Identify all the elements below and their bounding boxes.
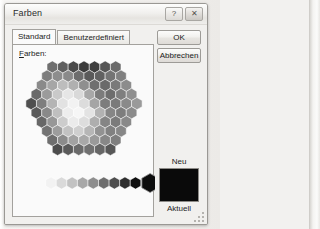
new-color-label: Neu	[157, 156, 201, 167]
gray-ramp-cell[interactable]	[67, 177, 78, 189]
gray-ramp-cell[interactable]	[130, 177, 141, 189]
gray-ramp-cell[interactable]	[77, 177, 88, 189]
tab-benutzerdefiniert[interactable]: Benutzerdefiniert	[57, 30, 129, 45]
gray-ramp-cell[interactable]	[46, 177, 57, 189]
honeycomb-svg[interactable]	[13, 59, 155, 169]
gray-ramp-cell[interactable]	[56, 177, 67, 189]
window-title: Farben	[13, 8, 42, 18]
ok-button[interactable]: OK	[157, 30, 201, 45]
tab-standard[interactable]: Standard	[12, 29, 56, 45]
title-bar[interactable]: Farben ? ✕	[5, 4, 207, 25]
question-mark-icon: ?	[166, 8, 182, 20]
close-button[interactable]: ✕	[185, 7, 203, 21]
selected-color-hexagon[interactable]	[142, 174, 155, 193]
colors-label: Farben:	[19, 49, 47, 58]
color-preview: Neu Aktuell	[157, 156, 201, 214]
honeycomb-color-grid[interactable]	[13, 59, 155, 169]
tab-strip: Standard Benutzerdefiniert	[12, 29, 130, 45]
gray-ramp-cell[interactable]	[120, 177, 131, 189]
colors-label-rest: arben:	[24, 49, 47, 58]
gray-ramp-cell[interactable]	[99, 177, 110, 189]
cancel-button[interactable]: Abbrechen	[157, 48, 201, 63]
gray-ramp-cell[interactable]	[88, 177, 99, 189]
help-button[interactable]: ?	[165, 7, 183, 21]
close-icon: ✕	[186, 8, 202, 20]
colors-panel: Farben:	[12, 44, 154, 217]
colors-dialog: Farben ? ✕ Standard Benutzerdefiniert Fa…	[4, 3, 208, 225]
color-preview-swatch	[159, 168, 199, 202]
grayscale-ramp[interactable]	[13, 169, 155, 203]
grayscale-ramp-svg[interactable]	[13, 169, 155, 203]
resize-grip[interactable]	[194, 211, 205, 222]
gray-ramp-cell[interactable]	[109, 177, 120, 189]
dialog-client-area: Standard Benutzerdefiniert Farben: OK Ab…	[5, 25, 207, 224]
